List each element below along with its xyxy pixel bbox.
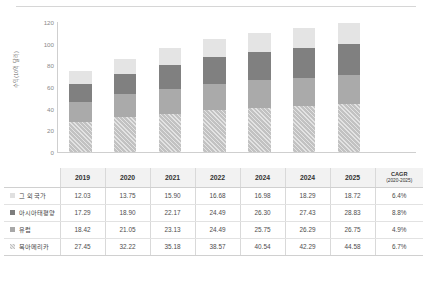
bar-segment-북아메리카 <box>293 106 315 152</box>
table-cell-r1-c4: 26.30 <box>240 204 285 221</box>
bar-segment-아시아태평양 <box>159 65 181 89</box>
bar-slot-2024-4 <box>237 22 282 152</box>
table-head: 2019202020212022202420242025CAGR(2020-20… <box>4 168 423 187</box>
data-table: 2019202020212022202420242025CAGR(2020-20… <box>4 168 423 256</box>
stacked-bar[interactable] <box>159 48 181 152</box>
table-cell-r1-c5: 27.43 <box>285 204 330 221</box>
bar-segment-그 외 국가 <box>159 48 181 65</box>
legend-swatch-icon <box>10 193 15 198</box>
table-column-header-5: 2024 <box>285 168 330 187</box>
stacked-bar[interactable] <box>203 39 225 152</box>
legend-item-유럽[interactable]: 유럽 <box>4 221 60 238</box>
bar-segment-그 외 국가 <box>338 23 360 43</box>
y-axis-ticks: 020406080100120 <box>30 22 56 152</box>
table-cell-r2-c2: 23.13 <box>150 221 195 238</box>
stacked-bar-chart: 수익(10억 달러) 020406080100120 <box>0 14 426 166</box>
table-cell-r2-c0: 18.42 <box>60 221 105 238</box>
stacked-bar[interactable] <box>338 23 360 152</box>
table-cell-r0-c2: 15.90 <box>150 187 195 204</box>
x-axis-line <box>57 152 416 153</box>
table-column-header-6: 2025 <box>330 168 375 187</box>
bar-segment-유럽 <box>293 78 315 106</box>
table-cell-r2-c4: 25.75 <box>240 221 285 238</box>
cagr-period-label: (2020-2025) <box>376 178 424 184</box>
bar-segment-아시아태평양 <box>114 74 136 94</box>
bar-segment-유럽 <box>248 80 270 108</box>
bar-slot-2022-3 <box>192 22 237 152</box>
legend-label: 유럽 <box>19 225 31 234</box>
legend-swatch-icon <box>10 244 15 249</box>
table-row: 그 외 국가12.0313.7515.9016.6816.9818.2918.7… <box>4 187 423 204</box>
legend-item-아시아태평양[interactable]: 아시아태평양 <box>4 204 60 221</box>
bar-segment-아시아태평양 <box>248 52 270 80</box>
table-column-header-cagr: CAGR(2020-2025) <box>375 168 423 187</box>
table-body: 그 외 국가12.0313.7515.9016.6816.9818.2918.7… <box>4 187 423 255</box>
legend-inner: 유럽 <box>10 225 60 234</box>
bar-segment-아시아태평양 <box>293 48 315 78</box>
y-axis-tick-20: 20 <box>47 127 54 134</box>
bar-segment-유럽 <box>203 84 225 111</box>
table-cell-r0-c4: 16.98 <box>240 187 285 204</box>
bar-slot-2021-2 <box>148 22 193 152</box>
table-cell-cagr-r2: 4.9% <box>375 221 423 238</box>
table-column-header-3: 2022 <box>195 168 240 187</box>
table-cell-r3-c6: 44.58 <box>330 238 375 255</box>
bar-segment-아시아태평양 <box>203 57 225 84</box>
table-cell-r0-c3: 16.68 <box>195 187 240 204</box>
stacked-bar[interactable] <box>293 28 315 152</box>
table-cell-r1-c0: 17.29 <box>60 204 105 221</box>
stacked-bar[interactable] <box>248 33 270 152</box>
bar-segment-북아메리카 <box>203 110 225 152</box>
table-cell-r2-c1: 21.05 <box>105 221 150 238</box>
y-axis-title: 수익(10억 달러) <box>12 28 19 112</box>
table-header-row: 2019202020212022202420242025CAGR(2020-20… <box>4 168 423 187</box>
bar-segment-북아메리카 <box>338 104 360 152</box>
table-cell-r1-c2: 22.17 <box>150 204 195 221</box>
bar-slot-2019-0 <box>58 22 103 152</box>
bar-segment-유럽 <box>69 102 91 122</box>
stacked-bar[interactable] <box>114 59 136 152</box>
bar-segment-유럽 <box>159 89 181 114</box>
stacked-bar[interactable] <box>69 71 91 152</box>
table-cell-r0-c5: 18.29 <box>285 187 330 204</box>
legend-label: 아시아태평양 <box>19 208 55 217</box>
chart-page: 수익(10억 달러) 020406080100120 2019202020212… <box>0 0 426 282</box>
bar-slot-2024-5 <box>282 22 327 152</box>
table-row: 유럽18.4221.0523.1324.4925.7526.2926.754.9… <box>4 221 423 238</box>
bar-segment-북아메리카 <box>159 114 181 152</box>
table-column-header-0: 2019 <box>60 168 105 187</box>
table-corner-cell <box>4 168 60 187</box>
table-cell-r1-c3: 24.49 <box>195 204 240 221</box>
table-cell-cagr-r0: 6.4% <box>375 187 423 204</box>
bar-slot-2020-1 <box>103 22 148 152</box>
table-cell-r2-c3: 24.49 <box>195 221 240 238</box>
table-column-header-2: 2021 <box>150 168 195 187</box>
table-cell-r3-c3: 38.57 <box>195 238 240 255</box>
bar-segment-북아메리카 <box>114 117 136 152</box>
y-axis-tick-100: 100 <box>44 40 54 47</box>
table-cell-r1-c6: 28.83 <box>330 204 375 221</box>
plot-area <box>58 22 416 152</box>
legend-item-북아메리카[interactable]: 북아메리카 <box>4 238 60 255</box>
table-cell-r0-c6: 18.72 <box>330 187 375 204</box>
bar-segment-북아메리카 <box>248 108 270 152</box>
table-cell-r3-c5: 42.29 <box>285 238 330 255</box>
table-column-header-1: 2020 <box>105 168 150 187</box>
legend-inner: 북아메리카 <box>10 242 60 251</box>
y-axis-tick-120: 120 <box>44 19 54 26</box>
legend-inner: 아시아태평양 <box>10 208 60 217</box>
table-cell-r3-c2: 35.18 <box>150 238 195 255</box>
bar-segment-아시아태평양 <box>338 44 360 75</box>
table-cell-r3-c1: 32.22 <box>105 238 150 255</box>
table-row: 아시아태평양17.2918.9022.1724.4926.3027.4328.8… <box>4 204 423 221</box>
bar-segment-유럽 <box>114 94 136 117</box>
table-row: 북아메리카27.4532.2235.1838.5740.5442.2944.58… <box>4 238 423 255</box>
top-divider <box>16 6 416 7</box>
bar-slot-2025-6 <box>327 22 372 152</box>
y-axis-tick-60: 60 <box>47 84 54 91</box>
table-cell-cagr-r3: 6.7% <box>375 238 423 255</box>
legend-item-그 외 국가[interactable]: 그 외 국가 <box>4 187 60 204</box>
bar-segment-유럽 <box>338 75 360 104</box>
legend-label: 그 외 국가 <box>19 191 46 200</box>
bar-segment-그 외 국가 <box>69 71 91 84</box>
